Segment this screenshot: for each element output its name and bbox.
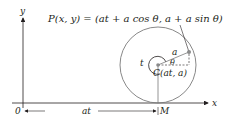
angle-label: θ (170, 58, 175, 67)
x-axis-label: x (212, 98, 217, 108)
radius-label: a (172, 47, 177, 57)
center-point (156, 63, 160, 67)
point-p (187, 50, 191, 54)
distance-at-dimension: at M (25, 106, 170, 116)
distance-label: at (82, 106, 91, 116)
equation-label: P(x, y) = (at + a cos θ, a + a sin θ) (47, 13, 223, 24)
rotation-label: t (140, 58, 144, 68)
center-label: C(at, a) (153, 68, 187, 78)
x-axis: x (12, 98, 217, 108)
origin-label: 0 (15, 106, 21, 116)
p-leader-line (180, 25, 189, 52)
cycloid-diagram: y x 0 at M t a θ C(at, a) P(x, y) = (at … (0, 0, 225, 123)
foot-label: M (159, 106, 170, 116)
y-axis-label: y (19, 6, 26, 16)
y-axis: y (19, 6, 26, 108)
